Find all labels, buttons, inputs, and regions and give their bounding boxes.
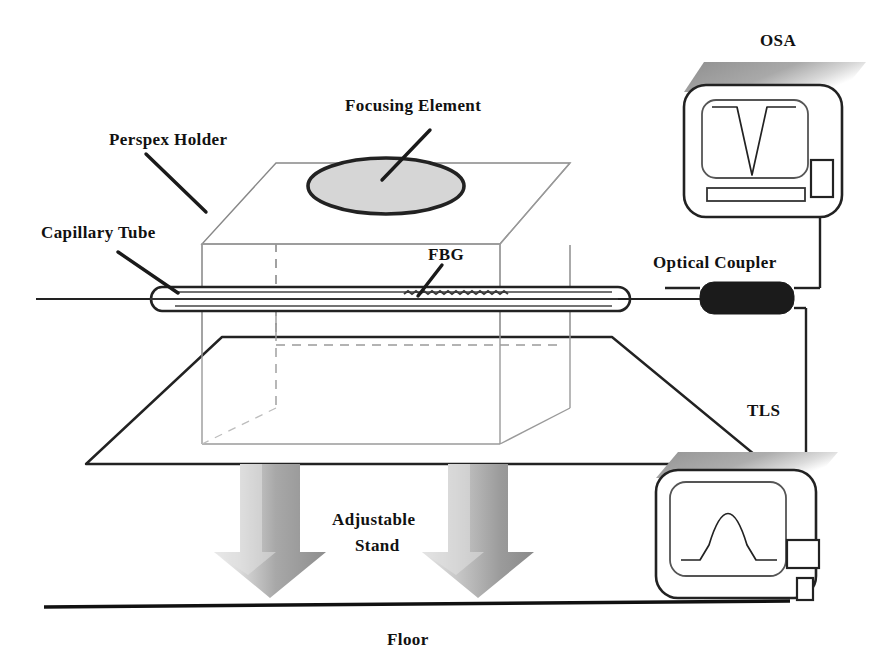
label-optical-coupler: Optical Coupler: [653, 253, 777, 272]
osa-port: [811, 160, 833, 197]
instrument-osa: [684, 62, 866, 217]
optical-coupler-body: [700, 282, 794, 314]
tls-screen: [670, 482, 786, 576]
label-focusing-element: Focusing Element: [345, 96, 481, 115]
label-tls: TLS: [747, 401, 780, 420]
label-perspex-holder: Perspex Holder: [109, 130, 227, 149]
label-capillary-tube: Capillary Tube: [41, 223, 156, 242]
capillary-tube-assembly: [36, 287, 700, 311]
focusing-element-ellipse: [308, 158, 464, 214]
adjustable-stand-plate: [86, 337, 766, 464]
osa-screen: [702, 100, 808, 178]
leader-perspex-holder: [146, 154, 206, 212]
label-osa: OSA: [760, 31, 796, 50]
tls-connector: [797, 578, 813, 600]
stand-arrow-right: [422, 464, 534, 598]
cable-routing: [806, 205, 820, 470]
floor-line: [44, 601, 790, 607]
label-adjustable-stand-line1: Adjustable: [332, 510, 415, 529]
osa-display-bar: [707, 188, 805, 201]
adjustable-stand-arrows: [214, 464, 534, 598]
instrument-tls: [656, 452, 838, 600]
label-adjustable-stand-line2: Stand: [355, 536, 400, 555]
label-floor: Floor: [387, 630, 429, 649]
diagram-canvas: Perspex Holder Capillary Tube Focusing E…: [0, 0, 896, 664]
stand-arrow-left: [214, 464, 326, 598]
setup-schematic: Perspex Holder Capillary Tube Focusing E…: [0, 0, 896, 664]
leader-capillary-tube: [118, 252, 178, 293]
tls-port: [787, 540, 819, 568]
label-fbg: FBG: [428, 245, 464, 264]
